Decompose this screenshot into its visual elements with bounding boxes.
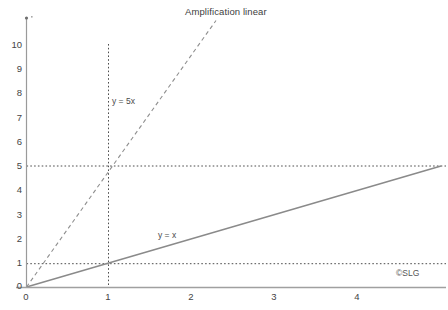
series-line-y-5x <box>27 21 217 288</box>
chart-title: Amplification linear <box>185 7 267 17</box>
y-tick-label-2: 2 <box>6 234 22 244</box>
y-tick-label-3: 3 <box>6 210 22 220</box>
x-tick-label-2: 2 <box>184 292 198 302</box>
y-tick-label-7: 7 <box>6 113 22 123</box>
y-tick-label-0: 0 <box>6 281 22 291</box>
y-axis-tip-dot <box>31 16 33 18</box>
chart-container: Amplification linear 10 9 8 7 6 5 4 3 2 … <box>0 0 448 310</box>
x-tick-label-4: 4 <box>350 292 364 302</box>
y-axis-cap-marker <box>25 16 28 19</box>
y-tick-label-10: 10 <box>6 40 22 50</box>
y-tick-label-6: 6 <box>6 137 22 147</box>
plot-area <box>0 0 448 310</box>
y-tick-label-4: 4 <box>6 185 22 195</box>
x-tick-label-3: 3 <box>267 292 281 302</box>
series-line-y-x <box>27 166 442 287</box>
series-annotation-y-x: y = x <box>158 230 176 240</box>
y-tick-label-1: 1 <box>6 258 22 268</box>
series-annotation-y-5x: y = 5x <box>112 96 135 106</box>
x-tick-label-0: 0 <box>19 292 33 302</box>
y-tick-label-5: 5 <box>6 161 22 171</box>
y-tick-label-8: 8 <box>6 88 22 98</box>
x-tick-label-1: 1 <box>101 292 115 302</box>
y-tick-label-9: 9 <box>6 64 22 74</box>
watermark-label: ©SLG <box>396 268 419 278</box>
